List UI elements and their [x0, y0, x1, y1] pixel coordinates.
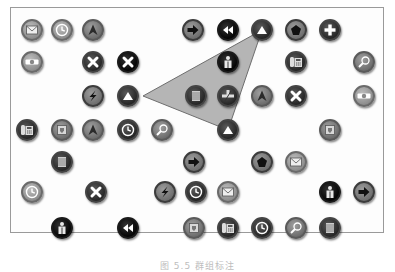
- mail-glyph: [25, 23, 39, 37]
- phone-glyph: [20, 123, 34, 137]
- close-icon[interactable]: [285, 85, 307, 107]
- close-glyph: [289, 89, 303, 103]
- triangle-up-glyph: [221, 123, 235, 137]
- phone-glyph: [289, 55, 303, 69]
- search-icon[interactable]: [353, 51, 375, 73]
- toggle-icon[interactable]: [353, 85, 375, 107]
- pentagon-glyph: [289, 23, 303, 37]
- clock-icon[interactable]: [117, 119, 139, 141]
- shield-glyph: [55, 123, 69, 137]
- triangle-up-icon[interactable]: [217, 119, 239, 141]
- rewind-icon[interactable]: [217, 19, 239, 41]
- clock-icon[interactable]: [51, 19, 73, 41]
- bolt-icon[interactable]: [154, 181, 176, 203]
- clock-icon[interactable]: [185, 181, 207, 203]
- nav-arrow-glyph: [86, 123, 100, 137]
- figure-caption: 图 5.5 群组标注: [0, 259, 395, 272]
- toggle-glyph: [357, 89, 371, 103]
- nav-arrow-glyph: [86, 23, 100, 37]
- plus-minus-glyph: [221, 89, 235, 103]
- search-icon[interactable]: [151, 119, 173, 141]
- shield-icon[interactable]: [319, 119, 341, 141]
- arrow-right-icon[interactable]: [182, 19, 204, 41]
- clock-glyph: [55, 23, 69, 37]
- person-glyph: [323, 185, 337, 199]
- nav-arrow-glyph: [255, 89, 269, 103]
- nav-arrow-icon[interactable]: [82, 19, 104, 41]
- close-icon[interactable]: [85, 181, 107, 203]
- mail-icon[interactable]: [217, 181, 239, 203]
- phone-icon[interactable]: [16, 119, 38, 141]
- plus-icon[interactable]: [319, 19, 341, 41]
- list-icon[interactable]: [319, 217, 341, 239]
- nav-arrow-icon[interactable]: [82, 119, 104, 141]
- phone-icon[interactable]: [285, 51, 307, 73]
- list-icon[interactable]: [185, 85, 207, 107]
- clock-icon[interactable]: [21, 181, 43, 203]
- triangle-up-glyph: [255, 23, 269, 37]
- person-glyph: [221, 55, 235, 69]
- shield-glyph: [187, 221, 201, 235]
- toggle-icon[interactable]: [21, 51, 43, 73]
- rewind-icon[interactable]: [117, 217, 139, 239]
- shield-glyph: [323, 123, 337, 137]
- mail-icon[interactable]: [285, 151, 307, 173]
- list-glyph: [55, 155, 69, 169]
- shield-icon[interactable]: [51, 119, 73, 141]
- close-icon[interactable]: [117, 51, 139, 73]
- close-glyph: [86, 55, 100, 69]
- toggle-glyph: [25, 55, 39, 69]
- bolt-glyph: [86, 89, 100, 103]
- pentagon-icon[interactable]: [285, 19, 307, 41]
- person-icon[interactable]: [51, 217, 73, 239]
- search-glyph: [155, 123, 169, 137]
- arrow-right-glyph: [186, 23, 200, 37]
- rewind-glyph: [121, 221, 135, 235]
- person-icon[interactable]: [217, 51, 239, 73]
- search-icon[interactable]: [285, 217, 307, 239]
- clock-glyph: [189, 185, 203, 199]
- nav-arrow-icon[interactable]: [251, 85, 273, 107]
- person-icon[interactable]: [319, 181, 341, 203]
- rewind-glyph: [221, 23, 235, 37]
- phone-icon[interactable]: [217, 217, 239, 239]
- phone-glyph: [221, 221, 235, 235]
- close-icon[interactable]: [82, 51, 104, 73]
- plus-minus-icon[interactable]: [217, 85, 239, 107]
- mail-glyph: [221, 185, 235, 199]
- search-glyph: [357, 55, 371, 69]
- bolt-glyph: [158, 185, 172, 199]
- arrow-right-glyph: [187, 155, 201, 169]
- plus-glyph: [323, 23, 337, 37]
- clock-glyph: [25, 185, 39, 199]
- list-glyph: [323, 221, 337, 235]
- arrow-right-glyph: [357, 185, 371, 199]
- clock-icon[interactable]: [251, 217, 273, 239]
- person-glyph: [55, 221, 69, 235]
- clock-glyph: [121, 123, 135, 137]
- list-icon[interactable]: [51, 151, 73, 173]
- triangle-up-icon[interactable]: [251, 19, 273, 41]
- close-glyph: [89, 185, 103, 199]
- close-glyph: [121, 55, 135, 69]
- mail-icon[interactable]: [21, 19, 43, 41]
- bolt-icon[interactable]: [82, 85, 104, 107]
- list-glyph: [189, 89, 203, 103]
- triangle-up-icon[interactable]: [117, 85, 139, 107]
- clock-glyph: [255, 221, 269, 235]
- arrow-right-icon[interactable]: [353, 181, 375, 203]
- mail-glyph: [289, 155, 303, 169]
- pentagon-glyph: [255, 155, 269, 169]
- triangle-up-glyph: [121, 89, 135, 103]
- pentagon-icon[interactable]: [251, 151, 273, 173]
- shield-icon[interactable]: [183, 217, 205, 239]
- arrow-right-icon[interactable]: [183, 151, 205, 173]
- search-glyph: [289, 221, 303, 235]
